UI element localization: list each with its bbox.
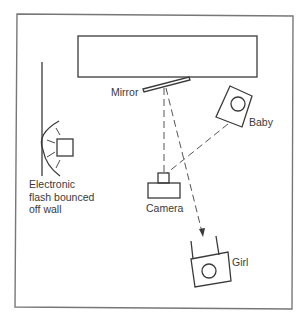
label-flash-line2: flash bounced [29,191,95,203]
girl [191,236,231,287]
label-flash-line1: Electronic [29,178,75,190]
label-mirror: Mirror [111,86,139,98]
label-flash-line3: off wall [29,203,62,215]
label-girl: Girl [232,256,248,268]
outer-frame [15,14,293,309]
top-rectangle [78,36,257,77]
baby [216,86,252,127]
path-baby-to-camera [167,124,228,173]
diagram-canvas: Mirror Baby Camera Girl Electronic flash… [0,0,308,323]
camera-icon [148,173,180,198]
flash-unit [41,121,73,176]
arrow-head-icon [199,228,205,237]
label-camera: Camera [146,202,184,214]
label-baby: Baby [249,116,274,128]
